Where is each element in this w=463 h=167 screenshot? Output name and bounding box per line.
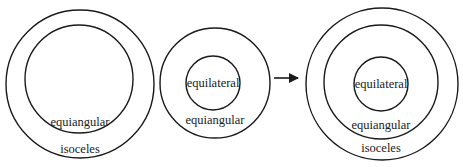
set-label-isoceles: isoceles xyxy=(361,141,401,155)
set-label-equilateral: equilateral xyxy=(187,76,240,90)
set-label-equiangular: equiangular xyxy=(351,118,411,132)
set-label-equiangular: equiangular xyxy=(50,115,110,129)
set-label-isoceles: isoceles xyxy=(60,142,100,156)
panel-left: isocelesequiangular xyxy=(6,10,154,158)
set-label-equilateral: equilateral xyxy=(355,77,408,91)
panel-right: isocelesequiangularequilateral xyxy=(306,8,458,160)
set-label-equiangular: equiangular xyxy=(185,113,245,127)
set-circle-isoceles xyxy=(6,10,154,158)
panel-middle: equiangularequilateral xyxy=(160,28,270,138)
nested-sets-diagram: isocelesequiangularequiangularequilatera… xyxy=(0,0,463,167)
